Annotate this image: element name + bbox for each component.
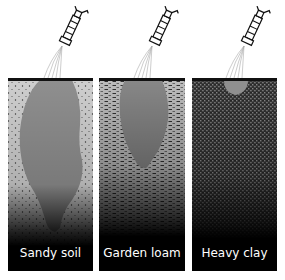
panel-garden-loam: Garden loam bbox=[99, 78, 185, 271]
label-heavy-clay: Heavy clay bbox=[201, 246, 267, 260]
spray-nozzle-icon bbox=[149, 5, 179, 47]
water-spray-lines bbox=[226, 46, 244, 78]
spray-nozzle-icon bbox=[59, 5, 89, 47]
label-sandy-soil: Sandy soil bbox=[20, 246, 81, 260]
water-spray-lines bbox=[134, 46, 152, 78]
surface-line bbox=[8, 78, 93, 81]
surface-line bbox=[192, 78, 277, 81]
spray-nozzle-icon bbox=[241, 5, 271, 47]
nozzle-2 bbox=[134, 5, 179, 78]
nozzle-1 bbox=[44, 5, 89, 78]
panel-heavy-clay: Heavy clay bbox=[192, 78, 277, 271]
panel-sandy-soil: Sandy soil bbox=[8, 78, 93, 271]
soil-water-diagram: Sandy soil Garden loam Heavy clay bbox=[0, 0, 285, 280]
water-spray-lines bbox=[44, 46, 62, 78]
nozzle-3 bbox=[226, 5, 271, 78]
label-garden-loam: Garden loam bbox=[103, 246, 181, 260]
surface-line bbox=[99, 78, 185, 81]
